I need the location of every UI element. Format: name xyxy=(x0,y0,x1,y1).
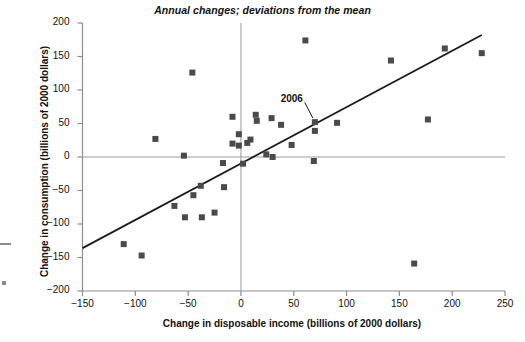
data-point-marker xyxy=(388,58,394,64)
page-edge-artifact-dot xyxy=(2,281,6,285)
y-tick-label: −200 xyxy=(34,284,70,295)
data-point-marker xyxy=(312,128,318,134)
data-point-marker xyxy=(479,50,485,56)
data-point-marker xyxy=(229,141,235,147)
data-point-marker xyxy=(152,136,158,142)
y-tick-label: −100 xyxy=(34,217,70,228)
y-tick-label: 150 xyxy=(34,50,70,61)
y-tick-label: −150 xyxy=(34,251,70,262)
x-tick-label: −150 xyxy=(58,298,108,309)
data-point-marker xyxy=(199,214,205,220)
scatter-chart-figure: Annual changes; deviations from the mean… xyxy=(0,0,525,342)
annotation-2006-label: 2006 xyxy=(281,93,303,104)
data-point-marker xyxy=(278,122,284,128)
y-tick-label: −50 xyxy=(34,184,70,195)
y-tick-label: 200 xyxy=(34,16,70,27)
data-point-marker xyxy=(181,153,187,159)
data-point-marker xyxy=(182,214,188,220)
data-point-marker xyxy=(212,210,218,216)
data-point-marker xyxy=(311,158,317,164)
page-edge-artifact-dash xyxy=(0,243,11,245)
x-tick-label: 250 xyxy=(480,298,525,309)
plot-area xyxy=(0,0,525,342)
x-tick-label: 200 xyxy=(427,298,477,309)
data-point-marker xyxy=(198,183,204,189)
data-point-marker xyxy=(442,45,448,51)
data-point-marker xyxy=(229,114,235,120)
x-tick-label: −100 xyxy=(110,298,160,309)
data-point-marker xyxy=(220,160,226,166)
data-point-marker xyxy=(254,118,260,124)
data-point-marker xyxy=(334,120,340,126)
data-point-marker xyxy=(189,70,195,76)
data-point-marker xyxy=(236,131,242,137)
y-tick-label: 0 xyxy=(34,150,70,161)
data-point-marker xyxy=(289,142,295,148)
data-point-marker xyxy=(240,161,246,167)
data-point-marker xyxy=(247,137,253,143)
data-point-marker xyxy=(425,116,431,122)
data-point-marker xyxy=(253,112,259,118)
data-point-marker xyxy=(236,143,242,149)
data-point-marker xyxy=(190,192,196,198)
data-point-marker xyxy=(312,119,318,125)
data-point-marker xyxy=(270,154,276,160)
data-point-marker xyxy=(269,115,275,121)
data-point-marker xyxy=(302,37,308,43)
data-point-marker xyxy=(411,261,417,267)
x-tick-label: −50 xyxy=(163,298,213,309)
y-tick-label: 100 xyxy=(34,83,70,94)
x-tick-label: 0 xyxy=(216,298,266,309)
data-point-marker xyxy=(139,252,145,258)
x-tick-label: 150 xyxy=(374,298,424,309)
x-tick-label: 50 xyxy=(269,298,319,309)
regression-line xyxy=(83,35,482,248)
data-point-marker xyxy=(221,184,227,190)
data-point-marker xyxy=(121,241,127,247)
data-point-marker xyxy=(171,203,177,209)
data-point-marker xyxy=(263,151,269,157)
y-tick-label: 50 xyxy=(34,117,70,128)
annotation-leader-line xyxy=(305,102,313,118)
x-tick-label: 100 xyxy=(322,298,372,309)
